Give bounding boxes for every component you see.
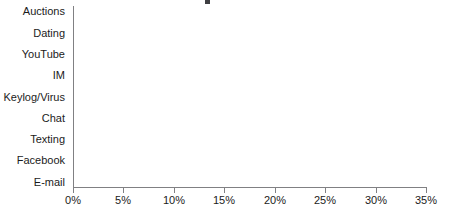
bar	[73, 146, 180, 153]
bar	[73, 157, 237, 164]
bar	[73, 125, 113, 132]
bar	[73, 50, 88, 57]
x-tick-label: 15%	[202, 193, 246, 207]
plot-area	[73, 6, 426, 187]
bar	[73, 18, 90, 25]
x-tick-label: 30%	[354, 193, 398, 207]
x-tick-label: 10%	[152, 193, 196, 207]
y-axis-label: YouTube	[22, 48, 65, 60]
y-axis-label: Facebook	[17, 154, 65, 166]
bar	[73, 40, 90, 47]
bar	[73, 8, 85, 15]
y-axis-labels: AuctionsDatingYouTubeIMKeylog/VirusChatT…	[0, 0, 69, 210]
clipped-title-artifact	[205, 0, 210, 4]
bar	[73, 72, 98, 79]
y-axis-line	[73, 6, 74, 188]
bars-layer	[73, 6, 426, 187]
x-tick-label: 20%	[253, 193, 297, 207]
y-axis-label: Chat	[42, 112, 65, 124]
bar	[73, 29, 90, 36]
bar	[73, 61, 96, 68]
bar-chart: AuctionsDatingYouTubeIMKeylog/VirusChatT…	[0, 0, 463, 210]
bar	[73, 136, 146, 143]
x-tick-label: 35%	[404, 193, 448, 207]
x-tick-label: 0%	[51, 193, 95, 207]
x-axis-line	[73, 187, 427, 188]
x-tick-label: 5%	[101, 193, 145, 207]
bar	[73, 82, 101, 89]
bar	[73, 178, 391, 185]
y-axis-label: E-mail	[34, 176, 65, 188]
bar	[73, 168, 290, 175]
y-axis-label: Texting	[30, 133, 65, 145]
y-axis-label: Auctions	[23, 5, 65, 17]
bar	[73, 114, 111, 121]
y-axis-label: IM	[53, 69, 65, 81]
bar	[73, 93, 108, 100]
bar	[73, 104, 109, 111]
y-axis-label: Keylog/Virus	[3, 91, 65, 103]
y-axis-label: Dating	[33, 27, 65, 39]
x-tick-label: 25%	[303, 193, 347, 207]
